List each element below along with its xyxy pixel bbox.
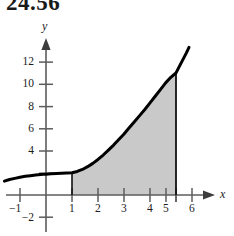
y-tick-label-10: 10	[14, 78, 34, 90]
y-axis-arrow	[41, 38, 50, 50]
x-tick-label-3: 3	[121, 203, 127, 215]
plot-canvas	[0, 0, 234, 236]
x-tick-label-5: 5	[163, 203, 169, 215]
y-tick-label-12: 12	[14, 56, 34, 68]
x-tick-label-6: 6	[189, 203, 195, 215]
x-tick-label-2: 2	[95, 203, 101, 215]
y-axis-label: y	[42, 20, 47, 32]
y-tick-label-6: 6	[14, 123, 34, 135]
x-axis-label: x	[220, 188, 225, 200]
figure-container: 24.56	[0, 0, 234, 236]
y-tick-label-8: 8	[14, 101, 34, 113]
x-tick-label-minus-1: −1	[9, 203, 21, 215]
x-axis-arrow	[203, 190, 215, 199]
x-tick-label-1: 1	[69, 203, 75, 215]
x-tick-label-4: 4	[147, 203, 153, 215]
y-tick-label-4: 4	[14, 145, 34, 157]
